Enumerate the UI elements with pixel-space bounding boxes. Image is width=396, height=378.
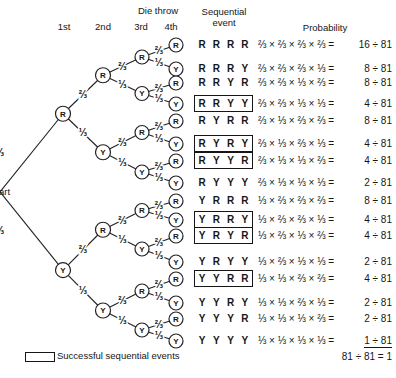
sequence-letter-RYRY-3: Y xyxy=(238,136,252,151)
probability-result-YYRY: 2 ÷ 81 xyxy=(330,296,392,310)
column-label-3rd: 3rd xyxy=(126,21,156,32)
sequence-letter-RYRY-1: Y xyxy=(209,136,223,151)
probability-result-value-YYYY: 1 ÷ 81 xyxy=(364,335,392,348)
probability-result-value-RYYR: 4 ÷ 81 xyxy=(364,155,392,166)
branch-label-YYR: ⅔ xyxy=(118,295,126,306)
sequence-letter-YYYY-2: Y xyxy=(224,333,238,348)
node-letter-RRYR: R xyxy=(173,79,179,88)
node-letter-YYY: Y xyxy=(139,326,145,335)
node-letter-YYRY: Y xyxy=(173,299,179,308)
sequence-letter-RRRY-2: R xyxy=(224,61,238,76)
sequence-letter-RRYR-1: R xyxy=(209,75,223,90)
sequence-letter-RRRY-3: Y xyxy=(238,61,252,76)
sequence-letter-RRYR-2: Y xyxy=(224,75,238,90)
branch-label-RRRR: ⅔ xyxy=(155,45,163,56)
branch-label-YY: ⅓ xyxy=(79,285,87,296)
legend-box xyxy=(25,352,55,362)
sequence-YYRY: YYRY xyxy=(195,295,252,310)
sequence-letter-RRRR-3: R xyxy=(238,37,252,52)
sequence-letter-YRYR-2: Y xyxy=(224,228,238,243)
sequence-letter-RYYR-3: R xyxy=(238,153,252,168)
sequence-letter-RYYR-0: R xyxy=(195,153,209,168)
sequence-RRYY: RRYY xyxy=(195,96,252,111)
branch-label-YYYR: ⅔ xyxy=(155,319,163,330)
probability-result-YRYR: 4 ÷ 81 xyxy=(330,229,392,243)
die-throw-header: Die throw xyxy=(128,5,188,16)
sequential-event-header: Sequential event xyxy=(196,6,252,28)
probability-result-value-YYRR: 4 ÷ 81 xyxy=(364,273,392,284)
probability-result-value-RRRR: 16 ÷ 81 xyxy=(359,39,392,50)
node-letter-YRY: Y xyxy=(139,245,145,254)
node-letter-YRR: R xyxy=(139,206,145,215)
sequence-letter-RYRR-1: Y xyxy=(209,113,223,128)
sequence-letter-RYYY-3: Y xyxy=(238,175,252,190)
probability-result-value-YYYR: 2 ÷ 81 xyxy=(364,313,392,324)
sequence-letter-RRYY-3: Y xyxy=(238,96,252,111)
sequence-letter-YYRY-3: Y xyxy=(238,295,252,310)
column-label-2nd: 2nd xyxy=(88,21,118,32)
sequence-RYYR: RYYR xyxy=(195,153,252,168)
probability-expression-RYYY: ⅔ × ⅓ × ⅓ × ⅓ = xyxy=(258,176,334,190)
sequence-YRRY: YRRY xyxy=(195,212,252,227)
node-letter-RRY: Y xyxy=(139,89,145,98)
probability-result-YYYR: 2 ÷ 81 xyxy=(330,312,392,326)
sequence-letter-RYYR-1: Y xyxy=(209,153,223,168)
node-letter-RRRR: R xyxy=(173,41,179,50)
node-letter-RYRY: Y xyxy=(173,140,179,149)
probability-expression-RRRY: ⅔ × ⅔ × ⅔ × ⅓ = xyxy=(258,62,334,76)
probability-expression-YYRR: ⅓ × ⅓ × ⅔ × ⅔ = xyxy=(258,272,334,286)
sequence-letter-RYYR-2: Y xyxy=(224,153,238,168)
branch-label-YRY: ⅓ xyxy=(118,234,126,245)
probability-result-value-YRRR: 8 ÷ 81 xyxy=(364,195,392,206)
branch-label-RYYR: ⅔ xyxy=(155,161,163,172)
probability-result-YRRR: 8 ÷ 81 xyxy=(330,194,392,208)
probability-expression-YYRY: ⅓ × ⅓ × ⅔ × ⅓ = xyxy=(258,296,334,310)
node-letter-YR: R xyxy=(100,226,106,235)
sequence-letter-YRYY-3: Y xyxy=(238,254,252,269)
sequence-letter-YRYR-1: R xyxy=(209,228,223,243)
sequence-letter-RYYY-1: Y xyxy=(209,175,223,190)
node-letter-RYYR: R xyxy=(173,157,179,166)
node-letter-RYR: R xyxy=(139,128,145,137)
node-letter-RRR: R xyxy=(139,53,145,62)
branch-label-RRY: ⅓ xyxy=(118,79,126,90)
sequence-RRRR: RRRR xyxy=(195,37,252,52)
tree-edge-R xyxy=(0,114,63,192)
sequence-RRRY: RRRY xyxy=(195,61,252,76)
probability-expression-RRRR: ⅔ × ⅔ × ⅔ × ⅔ = xyxy=(258,38,334,52)
branch-label-RRR: ⅔ xyxy=(118,61,126,72)
probability-expression-RYRR: ⅔ × ⅓ × ⅔ × ⅔ = xyxy=(258,114,334,128)
sequence-letter-YRRY-1: R xyxy=(209,212,223,227)
sequence-letter-YYRY-1: Y xyxy=(209,295,223,310)
probability-result-YRRY: 4 ÷ 81 xyxy=(330,213,392,227)
probability-expression-YRYY: ⅓ × ⅔ × ⅓ × ⅓ = xyxy=(258,255,334,269)
probability-expression-YRRR: ⅓ × ⅔ × ⅔ × ⅔ = xyxy=(258,194,334,208)
sequence-letter-YRRY-2: R xyxy=(224,212,238,227)
probability-result-value-RYYY: 2 ÷ 81 xyxy=(364,177,392,188)
branch-label-YYRY: ⅓ xyxy=(155,291,163,302)
branch-label-RYY: ⅓ xyxy=(118,157,126,168)
sequence-letter-YRRR-3: R xyxy=(238,193,252,208)
sequence-letter-YYRY-2: R xyxy=(224,295,238,310)
node-letter-RYYY: Y xyxy=(173,179,179,188)
probability-expression-RYYR: ⅔ × ⅓ × ⅓ × ⅔ = xyxy=(258,154,334,168)
branch-label-YRR: ⅔ xyxy=(118,215,126,226)
probability-expression-YRYR: ⅓ × ⅔ × ⅓ × ⅔ = xyxy=(258,229,334,243)
branch-label-RRRY: ⅓ xyxy=(155,57,163,68)
sequence-letter-RYRR-2: R xyxy=(224,113,238,128)
sequence-letter-YYYY-3: Y xyxy=(238,333,252,348)
probability-result-RRYR: 8 ÷ 81 xyxy=(330,76,392,90)
sequence-RYYY: RYYY xyxy=(195,175,252,190)
branch-label-RYRY: ⅓ xyxy=(155,133,163,144)
probability-expression-RYRY: ⅔ × ⅓ × ⅔ × ⅓ = xyxy=(258,137,334,151)
branch-label-YR: ⅔ xyxy=(79,244,87,255)
branch-label-RY: ⅓ xyxy=(79,127,87,138)
sequence-letter-YRYY-0: Y xyxy=(195,254,209,269)
sequential-event-header-line1: Sequential xyxy=(196,6,252,17)
probability-expression-RRYR: ⅔ × ⅔ × ⅓ × ⅔ = xyxy=(258,76,334,90)
node-letter-RYRR: R xyxy=(173,117,179,126)
sequence-letter-YYRR-3: R xyxy=(238,271,252,286)
sequence-RYRY: RYRY xyxy=(195,136,252,151)
sequence-RYRR: RYRR xyxy=(195,113,252,128)
sequence-YRRR: YRRR xyxy=(195,193,252,208)
